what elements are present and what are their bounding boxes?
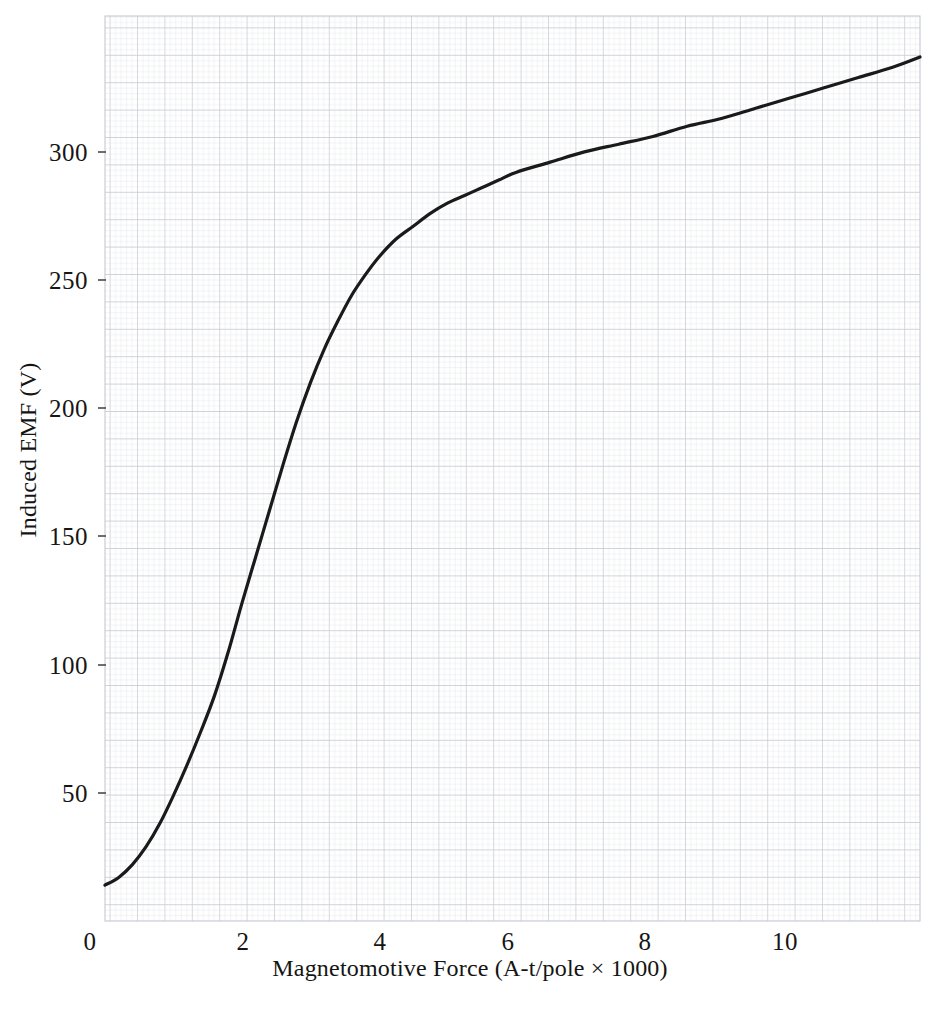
ytick-label-50: 50 bbox=[18, 781, 88, 806]
ytick-label-300: 300 bbox=[18, 140, 88, 165]
xtick-label-0: 0 bbox=[60, 929, 120, 954]
chart-figure: 50 100 150 200 250 300 0 2 4 6 8 10 Magn… bbox=[0, 0, 940, 1010]
y-axis-label-wrapper: Induced EMF (V) bbox=[15, 250, 55, 650]
xtick-label-6: 6 bbox=[478, 929, 538, 954]
x-axis-label: Magnetomotive Force (A-t/pole × 1000) bbox=[0, 955, 940, 982]
xtick-label-8: 8 bbox=[615, 929, 675, 954]
xtick-label-2: 2 bbox=[213, 929, 273, 954]
ytick-label-100: 100 bbox=[18, 653, 88, 678]
chart-canvas bbox=[0, 0, 940, 1010]
xtick-label-10: 10 bbox=[755, 929, 815, 954]
grid-paper bbox=[105, 16, 920, 921]
y-axis-label: Induced EMF (V) bbox=[15, 250, 42, 650]
xtick-label-4: 4 bbox=[350, 929, 410, 954]
